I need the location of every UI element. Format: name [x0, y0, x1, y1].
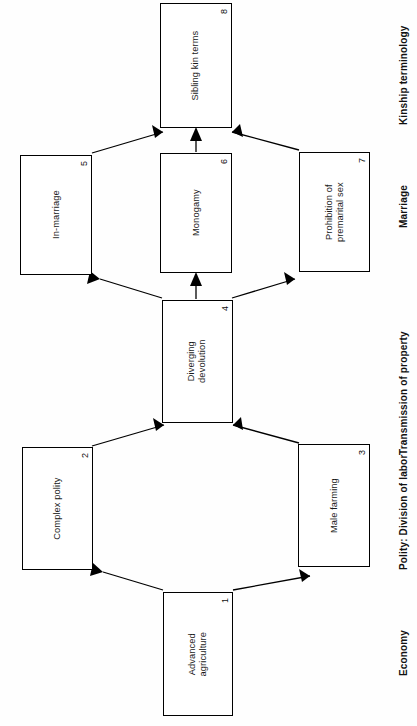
node-2-label-wrap: Complex polity	[23, 448, 92, 569]
node-4-label: Diverging devolution	[186, 340, 208, 383]
node-8-label: Sibling kin terms	[190, 31, 201, 101]
node-1-label: Advanced agriculture	[187, 632, 209, 677]
column-caption-polity-text: Polity: Division of labor	[398, 455, 409, 570]
node-2[interactable]: Complex polity 2	[22, 447, 93, 570]
edge-7-to-8	[232, 124, 299, 150]
edge-5-to-8	[92, 125, 163, 153]
column-caption-kinship-text: Kinship terminology	[398, 25, 409, 125]
column-caption-economy-text: Economy	[398, 630, 409, 676]
diagram-canvas: Sibling kin terms 8 In-marriage 5 Monoga…	[0, 0, 417, 726]
node-8-label-wrap: Sibling kin terms	[161, 4, 231, 127]
node-4-label-wrap: Diverging devolution	[163, 301, 232, 422]
edge-4-to-5	[87, 271, 162, 298]
node-2-number: 2	[81, 453, 90, 458]
node-4-number: 4	[221, 306, 230, 311]
edge-1-to-3	[233, 569, 310, 590]
node-1-number: 1	[221, 598, 230, 603]
node-4[interactable]: Diverging devolution 4	[162, 300, 233, 423]
edge-3-to-4	[233, 417, 299, 443]
node-5-number: 5	[80, 161, 89, 166]
node-6-number: 6	[220, 159, 229, 164]
node-7[interactable]: Prohibition of premarital sex 7	[299, 152, 370, 272]
node-5-label: In-marriage	[50, 191, 61, 240]
node-1-label-wrap: Advanced agriculture	[164, 593, 232, 715]
node-6[interactable]: Monogamy 6	[160, 153, 232, 273]
node-5[interactable]: In-marriage 5	[20, 155, 92, 275]
edge-1-to-2	[90, 563, 163, 590]
edge-4-to-7	[232, 272, 295, 298]
edge-4-to-6	[190, 272, 202, 299]
column-caption-property-text: Transmission of property	[398, 331, 409, 455]
node-3[interactable]: Male farming 3	[298, 444, 370, 567]
node-6-label: Monogamy	[190, 190, 201, 237]
node-3-number: 3	[358, 450, 367, 455]
column-caption-marriage-text: Marriage	[398, 185, 409, 228]
node-8-number: 8	[220, 9, 229, 14]
node-3-label-wrap: Male farming	[299, 445, 369, 566]
node-2-label: Complex polity	[52, 477, 63, 539]
node-3-label: Male farming	[328, 478, 339, 533]
node-7-number: 7	[358, 158, 367, 163]
node-6-label-wrap: Monogamy	[161, 154, 231, 272]
node-1[interactable]: Advanced agriculture 1	[163, 592, 233, 716]
edge-2-to-4	[92, 418, 164, 446]
node-5-label-wrap: In-marriage	[21, 156, 91, 274]
edge-6-to-8	[190, 127, 202, 152]
node-7-label: Prohibition of premarital sex	[323, 182, 345, 242]
node-8[interactable]: Sibling kin terms 8	[160, 3, 232, 128]
node-7-label-wrap: Prohibition of premarital sex	[300, 153, 369, 271]
